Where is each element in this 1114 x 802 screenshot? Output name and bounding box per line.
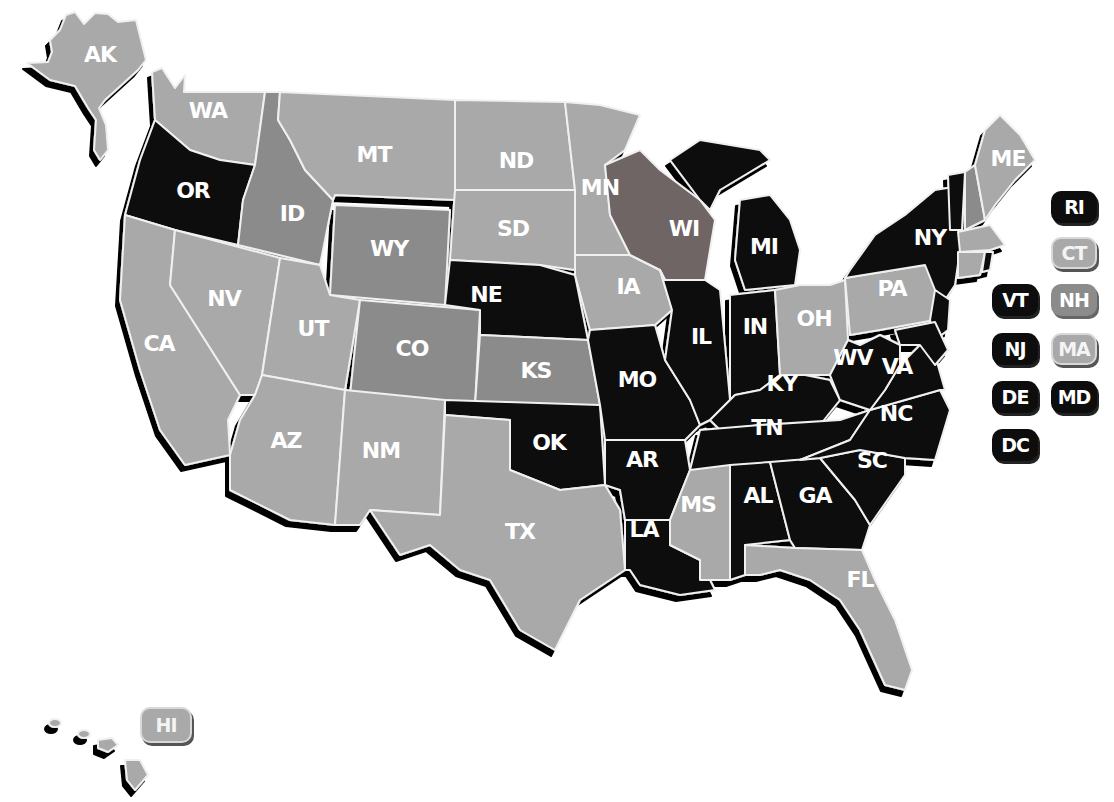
state-SD[interactable]: [450, 190, 575, 270]
badge-RI[interactable]: RI: [1051, 191, 1097, 223]
badge-HI[interactable]: HI: [140, 707, 192, 743]
badge-NJ[interactable]: NJ: [992, 333, 1038, 365]
state-AK[interactable]: [27, 12, 146, 160]
state-WY[interactable]: [330, 205, 450, 305]
badge-MA[interactable]: MA: [1051, 333, 1097, 365]
contiguous-us: [120, 68, 1035, 690]
state-VT-shape[interactable]: [948, 172, 965, 230]
state-CT-shape[interactable]: [958, 252, 985, 278]
badge-CT[interactable]: CT: [1051, 237, 1097, 269]
state-ME[interactable]: [975, 115, 1035, 220]
badge-VT[interactable]: VT: [992, 284, 1038, 316]
hawaii-islands: [49, 719, 148, 790]
state-AZ[interactable]: [230, 375, 345, 525]
badge-DE[interactable]: DE: [992, 381, 1038, 413]
state-RI-shape[interactable]: [982, 252, 993, 272]
state-CO[interactable]: [350, 300, 480, 405]
state-KS[interactable]: [475, 335, 600, 405]
badge-MD[interactable]: MD: [1051, 381, 1097, 413]
badge-NH[interactable]: NH: [1051, 284, 1097, 316]
state-NM[interactable]: [335, 390, 445, 525]
badge-DC[interactable]: DC: [992, 429, 1038, 461]
state-FL[interactable]: [745, 545, 912, 690]
us-states-map: AK WA OR CA ID NV MT WY UT CO AZ NM ND S…: [0, 0, 1114, 802]
state-ND[interactable]: [455, 100, 575, 190]
